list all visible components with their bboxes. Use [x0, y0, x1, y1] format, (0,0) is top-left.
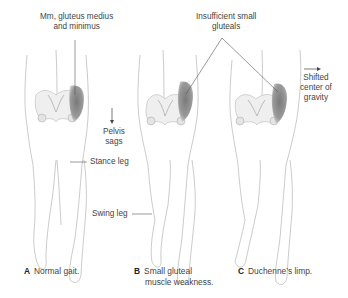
label-line: Insufficient small: [196, 12, 256, 22]
label-line: Pelvis: [103, 127, 125, 137]
label-line: center of: [300, 83, 332, 93]
caption-letter: A: [24, 266, 30, 276]
label-shifted-center: Shifted center of gravity: [300, 73, 332, 103]
caption-letter: B: [134, 266, 140, 276]
caption-a: ANormal gait.: [24, 266, 79, 277]
label-stance-leg: Stance leg: [90, 157, 129, 167]
label-swing-leg: Swing leg: [92, 209, 128, 219]
gluteal-muscle-b: [178, 82, 193, 122]
gait-illustration: [0, 0, 348, 298]
caption-letter: C: [238, 266, 244, 276]
label-line: and minimus: [40, 22, 113, 32]
label-gluteus-muscles: Mm, gluteus medius and minimus: [40, 12, 113, 32]
caption-text: Normal gait.: [34, 266, 79, 276]
arrow-right-icon: [317, 67, 321, 71]
gluteal-muscle-c: [272, 84, 287, 124]
label-line: sags: [103, 137, 125, 147]
label-line: Mm, gluteus medius: [40, 12, 113, 22]
caption-text: Small gluteal: [144, 266, 192, 276]
caption-c: CDuchenne’s limp.: [238, 266, 312, 277]
figure-a-normal-gait: [25, 50, 88, 282]
label-pelvis-sags: Pelvis sags: [103, 127, 125, 147]
caption-text: Duchenne’s limp.: [248, 266, 312, 276]
label-line: Shifted: [300, 73, 332, 83]
arrow-down-icon: [110, 120, 114, 124]
caption-text: muscle weakness.: [134, 277, 213, 288]
label-line: gluteals: [196, 22, 256, 32]
figure-c-duchenne-limp: [230, 50, 301, 284]
label-insufficient-gluteals: Insufficient small gluteals: [196, 12, 256, 32]
caption-b: BSmall gluteal muscle weakness.: [134, 266, 213, 287]
label-line: gravity: [300, 93, 332, 103]
